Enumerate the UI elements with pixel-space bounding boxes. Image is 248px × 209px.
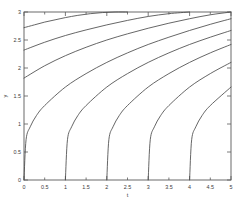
x-tick-label: 1: [64, 184, 67, 190]
solution-curve-plot: 00.511.522.533.544.55 00.511.522.53 t y: [0, 0, 248, 209]
x-tick-label: 0.5: [41, 184, 49, 190]
x-tick-label: 5: [230, 184, 233, 190]
solution-curve: [190, 87, 231, 180]
y-axis-label: y: [2, 94, 8, 97]
y-axis-tick-labels: 00.511.522.53: [14, 9, 22, 183]
x-tick-label: 1.5: [82, 184, 90, 190]
x-tick-label: 2: [105, 184, 108, 190]
y-tick-label: 0.5: [14, 149, 22, 155]
y-tick-label: 0: [18, 177, 21, 183]
solution-curve: [24, 12, 190, 50]
x-tick-label: 4: [188, 184, 191, 190]
x-tick-label: 0: [23, 184, 26, 190]
y-tick-label: 3: [18, 9, 21, 15]
x-axis-tick-labels: 00.511.522.533.544.55: [23, 184, 233, 190]
x-tick-label: 3: [147, 184, 150, 190]
x-tick-label: 3.5: [165, 184, 173, 190]
x-axis-label: t: [127, 192, 129, 198]
solution-curve: [24, 12, 128, 28]
y-tick-label: 2.5: [14, 37, 22, 43]
figure-panel: 00.511.522.533.544.55 00.511.522.53 t y: [0, 0, 248, 209]
x-tick-label: 4.5: [207, 184, 215, 190]
solution-curve: [24, 12, 231, 78]
y-tick-label: 2: [18, 65, 21, 71]
solution-curve: [65, 30, 231, 180]
y-tick-label: 1.5: [14, 93, 22, 99]
y-tick-label: 1: [18, 121, 21, 127]
solution-curve: [24, 19, 231, 180]
solution-curve: [107, 44, 231, 180]
solution-curve: [148, 62, 231, 180]
curve-series-group: [24, 12, 231, 180]
x-tick-label: 2.5: [124, 184, 132, 190]
